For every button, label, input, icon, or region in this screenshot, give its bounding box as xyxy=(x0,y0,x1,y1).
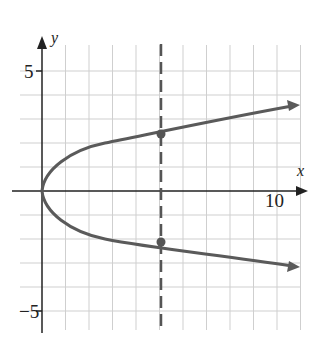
y-axis-arrow-icon xyxy=(37,36,47,49)
tick-label-10: 10 xyxy=(265,190,284,211)
tick-label-5: 5 xyxy=(24,61,34,82)
tick-label-neg5: −5 xyxy=(19,301,39,322)
parabola-curve xyxy=(42,106,292,266)
upper-arrow-icon xyxy=(287,100,300,111)
point-upper xyxy=(157,130,166,139)
x-axis-label: x xyxy=(296,162,304,179)
parabola-graph: y x 5 −5 10 xyxy=(0,0,320,339)
x-axis-arrow-icon xyxy=(296,186,308,196)
point-lower xyxy=(157,238,166,247)
y-axis-label: y xyxy=(49,29,59,47)
